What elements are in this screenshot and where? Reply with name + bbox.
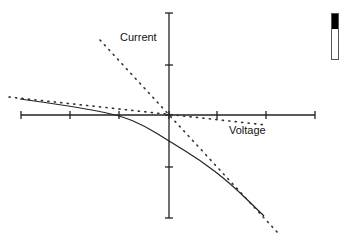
shallow-tangent-line bbox=[9, 97, 266, 125]
iv-curve bbox=[20, 99, 264, 216]
axes bbox=[21, 13, 315, 218]
cropped-legend-header bbox=[332, 14, 338, 29]
x-axis-label: Voltage bbox=[229, 125, 266, 136]
cropped-legend-box bbox=[331, 13, 339, 60]
y-axis-label: Current bbox=[120, 32, 157, 43]
curves bbox=[9, 40, 278, 233]
